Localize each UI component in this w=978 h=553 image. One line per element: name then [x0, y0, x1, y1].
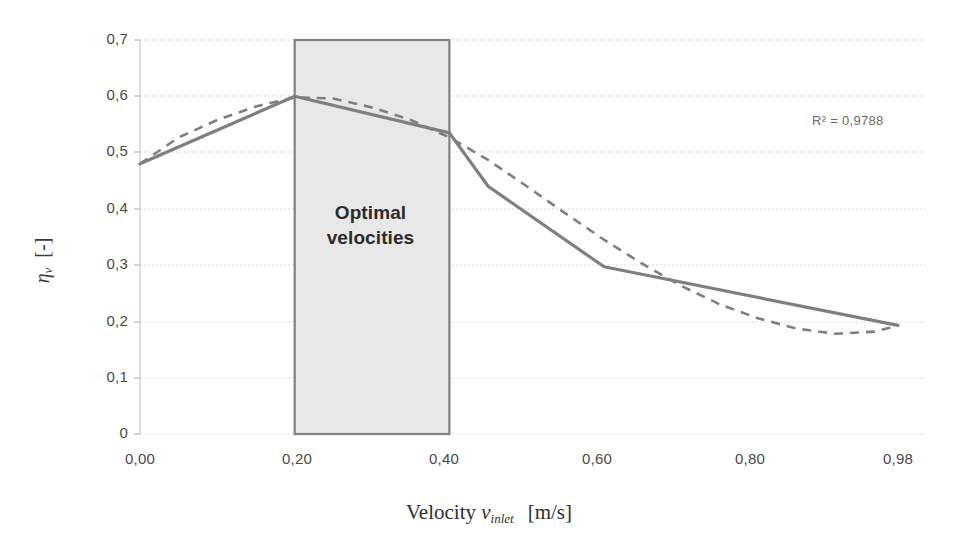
chart-figure: 0,7 0,6 0,5 0,4 0,3 0,2 0,1 0 0,00 0,20 … [0, 0, 978, 553]
y-axis-symbol-subscript: v [40, 268, 55, 274]
band-label-line1: Optimal [297, 200, 444, 225]
y-tick-label-0.0: 0 [84, 424, 128, 441]
y-tick-label-0.3: 0,3 [84, 255, 128, 272]
y-tick-label-0.5: 0,5 [84, 142, 128, 159]
x-axis-unit: [m/s] [528, 500, 572, 524]
x-tick-label-0.98: 0,98 [863, 450, 933, 467]
x-tick-label-0.00: 0,00 [105, 450, 175, 467]
y-tick-label-0.6: 0,6 [84, 86, 128, 103]
y-tick-label-0.7: 0,7 [84, 30, 128, 47]
x-tick-label-0.60: 0,60 [562, 450, 632, 467]
y-tick-label-0.1: 0,1 [84, 368, 128, 385]
x-axis-title-main: Velocity [406, 500, 476, 524]
y-tick-label-0.4: 0,4 [84, 199, 128, 216]
y-axis-unit: [-] [31, 238, 53, 258]
x-axis-symbol-subscript: inlet [491, 511, 514, 526]
y-axis-symbol: η [31, 273, 53, 283]
optimal-velocity-band-label: Optimal velocities [297, 200, 444, 250]
x-tick-label-0.40: 0,40 [409, 450, 479, 467]
measured-line-solid [140, 96, 898, 325]
y-axis-title: ηv [-] [31, 238, 56, 284]
chart-canvas [0, 0, 978, 553]
x-tick-label-0.80: 0,80 [715, 450, 785, 467]
x-axis-symbol: v [481, 500, 490, 524]
y-tick-label-0.2: 0,2 [84, 312, 128, 329]
r-squared-annotation: R² = 0,9788 [812, 113, 884, 128]
y-axis-ticks [134, 40, 140, 434]
trendline-dashed [140, 97, 898, 333]
gridlines-horizontal [140, 40, 925, 434]
x-axis-title: Velocity vinlet[m/s] [0, 500, 978, 527]
x-tick-label-0.20: 0,20 [262, 450, 332, 467]
band-label-line2: velocities [297, 225, 444, 250]
